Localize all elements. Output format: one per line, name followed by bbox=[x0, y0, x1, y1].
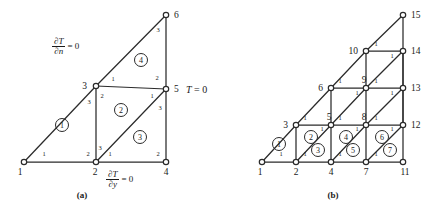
element-number-6: 6 bbox=[380, 133, 384, 142]
element-number-3: 3 bbox=[316, 146, 320, 155]
panel-b-mesh: 1234567111111111111111112345678910111213… bbox=[258, 10, 421, 177]
node-number-5: 5 bbox=[327, 112, 332, 122]
local-node-number: 1 bbox=[338, 114, 341, 121]
panel-a-mesh: 1234123213121323123456 bbox=[18, 10, 179, 177]
local-node-number: 1 bbox=[279, 150, 282, 157]
local-node-number: 3 bbox=[158, 104, 161, 111]
bc-dt-dn-value: = 0 bbox=[65, 42, 79, 51]
mesh-figure-svg: 1234123213121323123456 12345671111111111… bbox=[0, 0, 441, 208]
node-number-11: 11 bbox=[400, 167, 409, 177]
bc-dt-dn-fraction: ∂T∂n bbox=[52, 37, 65, 56]
element-number-7: 7 bbox=[388, 146, 392, 155]
local-node-number: 2 bbox=[100, 92, 103, 99]
mesh-node-4 bbox=[328, 159, 333, 164]
bc-dt-dn-denominator: ∂n bbox=[52, 47, 65, 56]
node-number-13: 13 bbox=[411, 83, 421, 93]
local-node-number: 1 bbox=[303, 114, 306, 121]
mesh-edge-8-13 bbox=[366, 88, 403, 125]
local-node-number: 1 bbox=[355, 89, 358, 96]
node-number-15: 15 bbox=[411, 10, 421, 20]
panel-caption-b: (b) bbox=[328, 190, 339, 200]
node-number-4: 4 bbox=[164, 167, 169, 177]
node-number-9: 9 bbox=[362, 75, 367, 85]
node-number-14: 14 bbox=[411, 46, 421, 56]
local-node-number: 3 bbox=[98, 144, 101, 151]
local-node-number: 1 bbox=[338, 150, 341, 157]
element-number-4: 4 bbox=[139, 56, 143, 65]
mesh-node-6 bbox=[163, 12, 168, 17]
local-node-number: 1 bbox=[42, 150, 45, 157]
node-number-3: 3 bbox=[283, 120, 288, 130]
node-number-1: 1 bbox=[18, 167, 23, 177]
mesh-node-10 bbox=[363, 48, 368, 53]
local-node-number: 1 bbox=[320, 125, 323, 132]
mesh-node-12 bbox=[400, 122, 405, 127]
mesh-node-15 bbox=[400, 12, 405, 17]
bc-dt-dy-fraction: ∂T∂y bbox=[106, 170, 119, 189]
element-number-1: 1 bbox=[277, 140, 281, 149]
mesh-node-8 bbox=[363, 122, 368, 127]
node-number-6: 6 bbox=[174, 10, 179, 20]
mesh-node-1 bbox=[21, 159, 26, 164]
panel-captions: (a)(b) bbox=[77, 190, 339, 200]
local-node-number: 1 bbox=[390, 125, 393, 132]
local-node-number: 1 bbox=[108, 150, 111, 157]
mesh-node-3 bbox=[293, 122, 298, 127]
mesh-node-3 bbox=[93, 83, 98, 88]
element-number-5: 5 bbox=[351, 146, 355, 155]
node-number-1: 1 bbox=[258, 167, 263, 177]
local-node-number: 1 bbox=[150, 92, 153, 99]
local-node-number: 3 bbox=[156, 26, 159, 33]
bc-dt-dn: ∂T∂n= 0 bbox=[52, 37, 79, 56]
bc-dt-dy-denominator: ∂y bbox=[106, 180, 119, 189]
mesh-edge-10-15 bbox=[366, 15, 403, 51]
mesh-node-14 bbox=[400, 48, 405, 53]
bc-dt-dy: ∂T∂y= 0 bbox=[106, 170, 133, 189]
bc-dt-dy-value: = 0 bbox=[119, 175, 133, 184]
mesh-node-5 bbox=[328, 122, 333, 127]
mesh-node-2 bbox=[93, 159, 98, 164]
mesh-edge-9-14 bbox=[366, 51, 403, 88]
node-number-6: 6 bbox=[318, 83, 323, 93]
local-node-number: 1 bbox=[338, 77, 341, 84]
mesh-node-1 bbox=[259, 159, 264, 164]
mesh-node-6 bbox=[328, 85, 333, 90]
bc-t-zero: T = 0 bbox=[186, 84, 207, 95]
node-number-7: 7 bbox=[364, 167, 369, 177]
local-node-number: 2 bbox=[155, 74, 158, 81]
mesh-node-7 bbox=[363, 159, 368, 164]
node-number-3: 3 bbox=[82, 81, 87, 91]
mesh-node-5 bbox=[163, 86, 168, 91]
element-number-3: 3 bbox=[138, 133, 142, 142]
node-number-2: 2 bbox=[294, 167, 299, 177]
mesh-node-4 bbox=[163, 159, 168, 164]
panel-caption-a: (a) bbox=[77, 190, 88, 200]
node-number-2: 2 bbox=[93, 167, 98, 177]
node-number-12: 12 bbox=[411, 120, 421, 130]
element-number-4: 4 bbox=[344, 133, 348, 142]
element-number-2: 2 bbox=[119, 106, 123, 115]
local-node-number: 1 bbox=[390, 52, 393, 59]
node-number-8: 8 bbox=[362, 112, 367, 122]
mesh-node-2 bbox=[293, 159, 298, 164]
local-node-number: 1 bbox=[111, 75, 114, 82]
local-node-number: 1 bbox=[355, 125, 358, 132]
local-node-number: 1 bbox=[374, 40, 377, 47]
local-node-number: 1 bbox=[374, 77, 377, 84]
mesh-node-11 bbox=[400, 159, 405, 164]
mesh-edge-3-5 bbox=[96, 86, 166, 89]
element-number-1: 1 bbox=[60, 121, 64, 130]
local-node-number: 2 bbox=[86, 150, 89, 157]
local-node-number: 1 bbox=[303, 150, 306, 157]
figure-root: 1234123213121323123456 12345671111111111… bbox=[0, 0, 441, 208]
local-node-number: 1 bbox=[374, 114, 377, 121]
local-node-number: 1 bbox=[374, 150, 377, 157]
node-number-10: 10 bbox=[349, 46, 359, 56]
local-node-number: 1 bbox=[390, 89, 393, 96]
element-number-2: 2 bbox=[309, 133, 313, 142]
mesh-node-13 bbox=[400, 85, 405, 90]
local-node-number: 2 bbox=[156, 150, 159, 157]
node-number-5: 5 bbox=[174, 84, 179, 94]
local-node-number: 3 bbox=[87, 98, 90, 105]
node-number-4: 4 bbox=[329, 167, 334, 177]
